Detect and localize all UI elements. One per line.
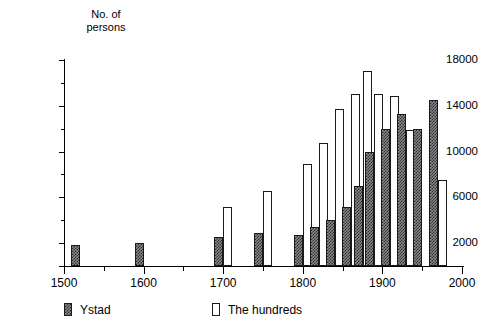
x-tick-major: [303, 267, 304, 274]
x-tick-minor: [104, 267, 105, 271]
legend-label-ystad: Ystad: [80, 304, 111, 316]
x-tick-label: 1800: [278, 277, 328, 289]
x-tick-label: 2000: [437, 277, 483, 289]
x-tick-minor: [263, 267, 264, 271]
bar-ystad-1520: [71, 245, 80, 266]
x-tick-major: [64, 267, 65, 274]
bar-ystad-1875: [354, 186, 363, 266]
x-tick-major: [382, 267, 383, 274]
legend-swatch-ystad-icon: [64, 303, 72, 316]
x-tick-minor: [183, 267, 184, 271]
bar-ystad-1820: [310, 227, 319, 266]
bar-ystad-1910: [381, 129, 390, 266]
bar-ystad-1800: [294, 235, 303, 266]
x-tick-label: 1600: [119, 277, 169, 289]
bar-hundreds-1970: [438, 180, 447, 266]
x-tick-label: 1500: [39, 277, 89, 289]
bar-ystad-1700: [214, 237, 223, 266]
bar-ystad-1860: [342, 207, 351, 267]
x-axis-line: [64, 266, 464, 267]
x-tick-major: [223, 267, 224, 274]
x-tick-label: 1900: [357, 277, 407, 289]
x-tick-major: [144, 267, 145, 274]
bar-ystad-1950: [413, 129, 422, 266]
bar-ystad-1750: [254, 233, 263, 266]
bar-ystad-1840: [326, 220, 335, 266]
bar-hundreds-1700: [223, 207, 232, 267]
x-tick-major: [462, 267, 463, 274]
bar-ystad-1890: [365, 152, 374, 266]
legend-swatch-the-hundreds-icon: [212, 303, 220, 316]
legend-label-the-hundreds: The hundreds: [228, 304, 302, 316]
legend-item-the-hundreds: The hundreds: [212, 303, 302, 316]
bar-hundreds-1750: [263, 191, 272, 266]
bar-ystad-1930: [397, 114, 406, 266]
x-tick-label: 1700: [198, 277, 248, 289]
bar-ystad-1600: [135, 243, 144, 266]
y-axis-title: No. of persons: [61, 8, 151, 34]
legend-item-ystad: Ystad: [64, 303, 111, 316]
x-tick-minor: [343, 267, 344, 271]
chart-legend: Ystad The hundreds: [64, 300, 464, 322]
x-tick-minor: [422, 267, 423, 271]
plot-area: [64, 60, 462, 266]
bar-ystad-1970: [429, 100, 438, 266]
